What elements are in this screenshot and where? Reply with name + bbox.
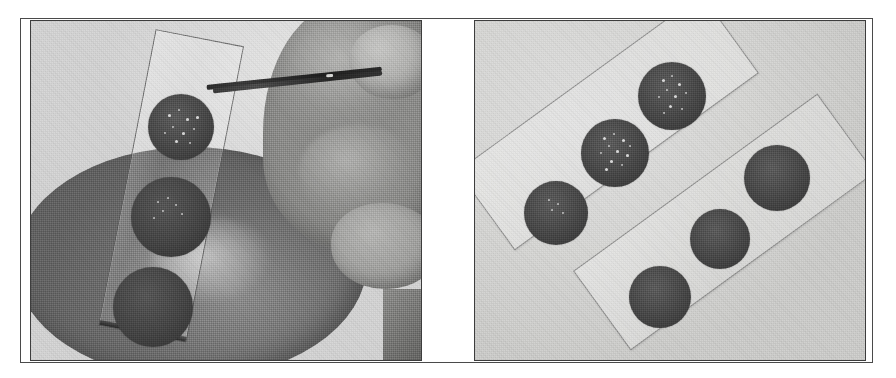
disc-a1 bbox=[638, 62, 706, 130]
disc-middle-speckles bbox=[131, 177, 211, 257]
panel-right-image bbox=[475, 21, 865, 360]
disc-a1-speckles bbox=[638, 62, 706, 130]
disc-a3 bbox=[524, 181, 588, 245]
disc-b2 bbox=[690, 209, 750, 269]
knuckle-highlight bbox=[299, 125, 419, 217]
disc-a2-speckles bbox=[581, 119, 649, 187]
panel-left-image bbox=[31, 21, 421, 360]
panel-left bbox=[30, 20, 422, 361]
disc-middle bbox=[131, 177, 211, 257]
disc-top bbox=[148, 94, 214, 160]
disc-a2 bbox=[581, 119, 649, 187]
disc-top-speckles bbox=[148, 94, 214, 160]
disc-b3 bbox=[629, 266, 691, 328]
panel-right bbox=[474, 20, 866, 361]
disc-bottom bbox=[113, 267, 193, 347]
disc-a3-speckles bbox=[524, 181, 588, 245]
figure-outer-frame bbox=[20, 18, 873, 363]
wrist-shadow bbox=[383, 289, 421, 360]
disc-b1 bbox=[744, 145, 810, 211]
figure-root bbox=[0, 0, 896, 378]
